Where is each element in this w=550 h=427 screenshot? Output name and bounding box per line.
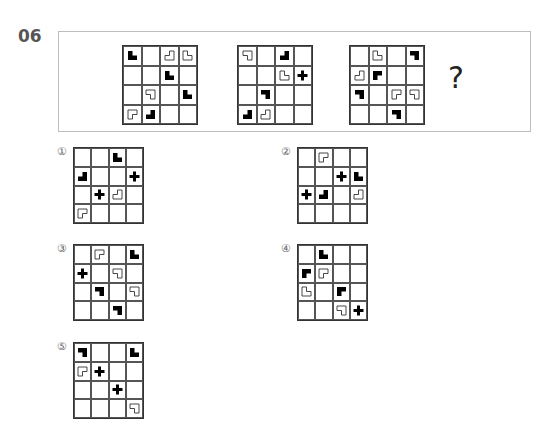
plus-icon <box>301 189 312 200</box>
option-2-grid[interactable] <box>297 147 368 224</box>
grid-cell-r0c1 <box>315 245 332 264</box>
grid-cell-r1c2 <box>160 66 179 86</box>
grid-cell-r1c2 <box>109 167 126 186</box>
grid-cell-r2c3 <box>126 186 143 205</box>
black-l-shape-notch-bottom-right-icon <box>372 70 383 81</box>
option-3-grid[interactable] <box>73 244 144 321</box>
option-5-grid[interactable] <box>73 342 144 419</box>
grid-cell-r2c1 <box>91 381 108 400</box>
grid-cell-r2c0 <box>298 283 315 302</box>
grid-cell-r3c1 <box>257 105 276 125</box>
grid-cell-r2c1 <box>142 85 161 105</box>
grid-cell-r2c3 <box>406 85 425 105</box>
grid-cell-r3c1 <box>315 301 332 320</box>
grid-cell-r0c2 <box>387 46 406 66</box>
white-l-shape-notch-top-right-icon <box>279 70 290 81</box>
grid-cell-r2c3 <box>294 85 313 105</box>
option-1-grid[interactable] <box>73 147 144 224</box>
white-l-shape-notch-bottom-right-icon <box>391 89 402 100</box>
option-3-label[interactable]: ③ <box>57 242 67 255</box>
grid-cell-r0c3 <box>350 148 367 167</box>
grid-cell-r3c1 <box>369 105 388 125</box>
grid-cell-r0c1 <box>91 343 108 362</box>
white-l-shape-notch-bottom-right-icon <box>318 152 329 163</box>
grid-cell-r3c2 <box>109 399 126 418</box>
grid-cell-r2c0 <box>123 85 142 105</box>
grid-cell-r0c0 <box>123 46 142 66</box>
grid-cell-r3c3 <box>350 301 367 320</box>
sequence-grid-2 <box>237 45 313 125</box>
grid-cell-r0c0 <box>298 148 315 167</box>
grid-cell-r0c0 <box>298 245 315 264</box>
grid-cell-r0c0 <box>238 46 257 66</box>
grid-cell-r3c2 <box>387 105 406 125</box>
grid-cell-r3c3 <box>294 105 313 125</box>
grid-cell-r2c0 <box>238 85 257 105</box>
grid-cell-r3c3 <box>350 204 367 223</box>
grid-cell-r2c1 <box>91 186 108 205</box>
plus-icon <box>94 366 105 377</box>
grid-cell-r3c0 <box>74 301 91 320</box>
grid-cell-r0c1 <box>142 46 161 66</box>
grid-cell-r0c3 <box>126 245 143 264</box>
grid-cell-r2c2 <box>109 283 126 302</box>
black-l-shape-notch-top-right-icon <box>353 171 364 182</box>
grid-cell-r1c1 <box>91 264 108 283</box>
white-l-shape-notch-bottom-left-icon <box>409 89 420 100</box>
plus-icon <box>112 384 123 395</box>
white-l-shape-notch-bottom-left-icon <box>145 89 156 100</box>
grid-cell-r2c1 <box>315 283 332 302</box>
white-l-shape-notch-top-right-icon <box>372 50 383 61</box>
grid-cell-r1c2 <box>109 264 126 283</box>
grid-cell-r3c1 <box>91 301 108 320</box>
grid-cell-r1c2 <box>275 66 294 86</box>
grid-cell-r0c1 <box>369 46 388 66</box>
white-l-shape-notch-bottom-right-icon <box>77 366 88 377</box>
black-l-shape-notch-top-left-icon <box>318 189 329 200</box>
grid-cell-r1c3 <box>294 66 313 86</box>
black-l-shape-notch-top-right-icon <box>112 152 123 163</box>
white-l-shape-notch-top-right-icon <box>301 286 312 297</box>
black-l-shape-notch-bottom-left-icon <box>354 89 365 100</box>
sequence-grid-1 <box>122 45 198 125</box>
grid-cell-r3c0 <box>74 399 91 418</box>
grid-cell-r1c0 <box>74 362 91 381</box>
black-l-shape-notch-bottom-left-icon <box>391 109 402 120</box>
grid-cell-r1c0 <box>298 167 315 186</box>
option-1-label[interactable]: ① <box>57 145 67 158</box>
grid-cell-r3c2 <box>333 301 350 320</box>
grid-cell-r0c2 <box>333 148 350 167</box>
grid-cell-r3c1 <box>91 204 108 223</box>
grid-cell-r3c2 <box>160 105 179 125</box>
grid-cell-r3c2 <box>333 204 350 223</box>
grid-cell-r1c0 <box>350 66 369 86</box>
white-l-shape-notch-bottom-right-icon <box>127 109 138 120</box>
grid-cell-r3c1 <box>91 399 108 418</box>
grid-cell-r0c3 <box>406 46 425 66</box>
grid-cell-r1c2 <box>387 66 406 86</box>
grid-cell-r3c2 <box>275 105 294 125</box>
grid-cell-r1c3 <box>126 264 143 283</box>
grid-cell-r1c1 <box>315 167 332 186</box>
option-5-label[interactable]: ⑤ <box>57 340 67 353</box>
grid-cell-r3c0 <box>238 105 257 125</box>
option-4-grid[interactable] <box>297 244 368 321</box>
grid-cell-r2c3 <box>350 186 367 205</box>
grid-cell-r3c0 <box>298 301 315 320</box>
grid-cell-r2c2 <box>333 283 350 302</box>
option-2-label[interactable]: ② <box>281 145 291 158</box>
grid-cell-r0c0 <box>74 245 91 264</box>
grid-cell-r2c1 <box>257 85 276 105</box>
grid-cell-r0c3 <box>179 46 198 66</box>
option-4-label[interactable]: ④ <box>281 242 291 255</box>
grid-cell-r2c3 <box>179 85 198 105</box>
black-l-shape-notch-top-right-icon <box>129 347 140 358</box>
grid-cell-r1c1 <box>142 66 161 86</box>
black-l-shape-notch-bottom-right-icon <box>301 268 312 279</box>
grid-cell-r3c2 <box>109 204 126 223</box>
grid-cell-r2c0 <box>350 85 369 105</box>
grid-cell-r0c3 <box>350 245 367 264</box>
grid-cell-r0c3 <box>126 148 143 167</box>
grid-cell-r3c3 <box>126 301 143 320</box>
grid-cell-r3c2 <box>109 301 126 320</box>
